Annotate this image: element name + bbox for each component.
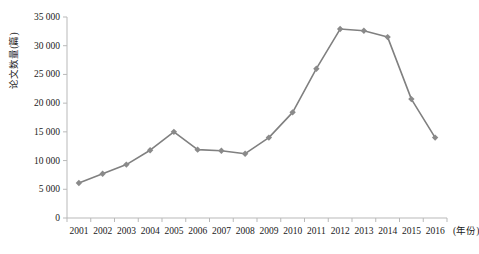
- x-axis-tick-label: 2016: [415, 226, 455, 237]
- x-axis-unit-label: (年份): [453, 226, 479, 237]
